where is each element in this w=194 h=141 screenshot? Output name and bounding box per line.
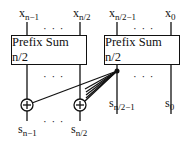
input-x-n-2-1: xn/2−1 [109,7,136,23]
input-x-n-1: xn−1 [19,7,39,23]
output-s-n-2-1: sn/2−1 [109,97,135,113]
fanout-junction-dot [115,69,120,74]
box-label: Prefix Sum n/2 [12,35,86,65]
middle-ellipsis-left: · · · [43,70,65,82]
input-x-n-2: xn/2 [73,7,91,23]
output-s-n-2: sn/2 [71,123,87,139]
output-s-0: s0 [165,97,174,113]
input-ellipsis-left: · · · [43,22,65,34]
middle-ellipsis-right: · · · [133,70,155,82]
output-ellipsis: · · · [43,115,65,127]
prefix-sum-box-right: Prefix Sum n/2 [104,35,180,65]
prefix-sum-box-left: Prefix Sum n/2 [11,35,87,65]
input-x-0: x0 [165,7,176,23]
box-label: Prefix Sum n/2 [105,35,179,65]
output-s-n-1: sn−1 [18,123,37,139]
input-ellipsis-right: · · · [133,22,155,34]
